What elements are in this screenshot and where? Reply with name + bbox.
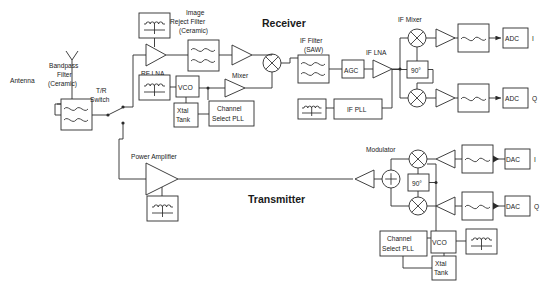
dac-q-suffix-label: Q xyxy=(534,203,539,211)
if-mixer-label: IF Mixer xyxy=(398,16,423,23)
if-filter-label-line1: IF Filter xyxy=(300,37,323,44)
image-reject-filter-ceramic xyxy=(188,40,219,71)
if-filter-label-line2: (SAW) xyxy=(304,46,323,54)
tr-switch-label-line1: T/R xyxy=(96,87,107,94)
power-amplifier-label: Power Amplifier xyxy=(131,153,178,161)
tx-channel-pll-label-line2: Select PLL xyxy=(382,245,414,252)
adc-i-suffix-label: I xyxy=(532,35,534,42)
if-pll-label: IF PLL xyxy=(347,106,367,113)
tx-q-lowpass-filter xyxy=(462,192,493,220)
tx-i-signal-arrow xyxy=(493,156,499,163)
modulator-summer xyxy=(382,170,400,188)
transmitter-section-title: Transmitter xyxy=(248,193,305,205)
bandpass-filter-ceramic xyxy=(61,99,92,130)
tx-driver-amplifier xyxy=(355,170,374,188)
rx-lo-buffer-amplifier xyxy=(225,79,245,97)
if-pll-bias-network xyxy=(298,99,326,119)
bandpass-filter-label-line3: (Ceramic) xyxy=(48,80,77,88)
power-amplifier-bias-network xyxy=(147,196,178,221)
image-reject-filter-label-line1: Image xyxy=(186,9,205,17)
dac-q-label: DAC xyxy=(506,203,520,210)
dac-i-label: DAC xyxy=(506,156,520,163)
rx-channel-pll-label-line1: Channel xyxy=(217,105,242,112)
rx-q-amplifier xyxy=(436,89,455,107)
rx-i-lowpass-filter xyxy=(458,24,489,52)
rf-lna-bias-network xyxy=(139,13,170,38)
rx-vco-label: VCO xyxy=(178,84,193,91)
agc-label: AGC xyxy=(344,67,359,74)
tr-switch[interactable] xyxy=(106,105,124,124)
rf-lna-amplifier xyxy=(146,44,166,66)
tx-channel-pll-label-line1: Channel xyxy=(387,235,412,242)
bandpass-filter-label-line1: Bandpass xyxy=(49,62,79,70)
tx-q-amplifier xyxy=(436,197,455,215)
rx-xtal-tank-label-line2: Tank xyxy=(176,116,191,123)
rf-mixer xyxy=(263,54,281,72)
adc-i-label: ADC xyxy=(505,35,519,42)
if-lna-label: IF LNA xyxy=(366,49,387,56)
tx-vco-bias-network xyxy=(466,229,497,254)
tx-i-lowpass-filter xyxy=(462,145,493,173)
tx-vco-label: VCO xyxy=(432,239,447,246)
tx-phase-shift-label: 90° xyxy=(412,180,422,187)
if-mixer-q xyxy=(408,89,426,107)
rf-gain-amplifier xyxy=(232,45,252,65)
rf-transceiver-diagram: Receiver Transmitter Antenna Bandpass Fi… xyxy=(0,0,541,284)
bandpass-filter-label-line2: Filter xyxy=(57,71,72,78)
diagram-canvas: Receiver Transmitter Antenna Bandpass Fi… xyxy=(0,0,541,284)
rx-xtal-tank-label-line1: Xtal xyxy=(177,107,189,114)
if-mixer-i xyxy=(408,29,426,47)
image-reject-filter-label-line2: Reject Filter xyxy=(170,18,206,26)
tx-mixer-q xyxy=(409,197,427,215)
rx-vco-bias-network xyxy=(139,75,170,100)
dac-i-suffix-label: I xyxy=(534,156,536,163)
rx-i-amplifier xyxy=(436,29,455,47)
adc-q-suffix-label: Q xyxy=(532,95,537,103)
tr-switch-label-line2: Switch xyxy=(90,96,110,103)
tx-xtal-tank-label-line1: Xtal xyxy=(435,260,447,267)
image-reject-filter-label-line3: (Ceramic) xyxy=(179,27,208,35)
tx-xtal-tank-label-line2: Tank xyxy=(434,269,449,276)
tx-q-signal-arrow xyxy=(493,203,499,210)
rx-q-lowpass-filter xyxy=(458,84,489,112)
antenna-label: Antenna xyxy=(10,77,35,84)
if-filter-saw xyxy=(298,55,329,83)
tx-i-amplifier xyxy=(436,150,455,168)
tx-mixer-i xyxy=(409,150,427,168)
receiver-section-title: Receiver xyxy=(262,17,306,29)
modulator-label: Modulator xyxy=(366,146,396,153)
rx-phase-shift-label: 90° xyxy=(411,67,421,74)
if-lna-amplifier xyxy=(373,60,392,78)
rx-channel-pll-label-line2: Select PLL xyxy=(212,115,244,122)
mixer-label: Mixer xyxy=(232,72,249,79)
adc-q-label: ADC xyxy=(505,95,519,102)
